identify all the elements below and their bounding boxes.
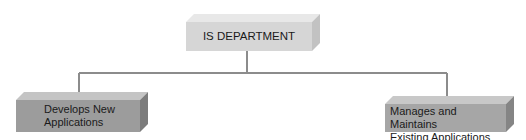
child-node-develops-label-line2: Applications [44, 116, 140, 129]
child-node-develops-label-line1: Develops New [44, 103, 140, 116]
child-node-manages-label-line1: Manages and Maintains [390, 105, 506, 131]
child-node-develops: Develops New Applications [16, 100, 140, 132]
child-node-manages-label-line2: Existing Applications [390, 131, 506, 140]
child-node-manages: Manages and Maintains Existing Applicati… [385, 104, 506, 132]
root-node: IS DEPARTMENT [186, 22, 312, 51]
root-node-label: IS DEPARTMENT [203, 30, 295, 43]
